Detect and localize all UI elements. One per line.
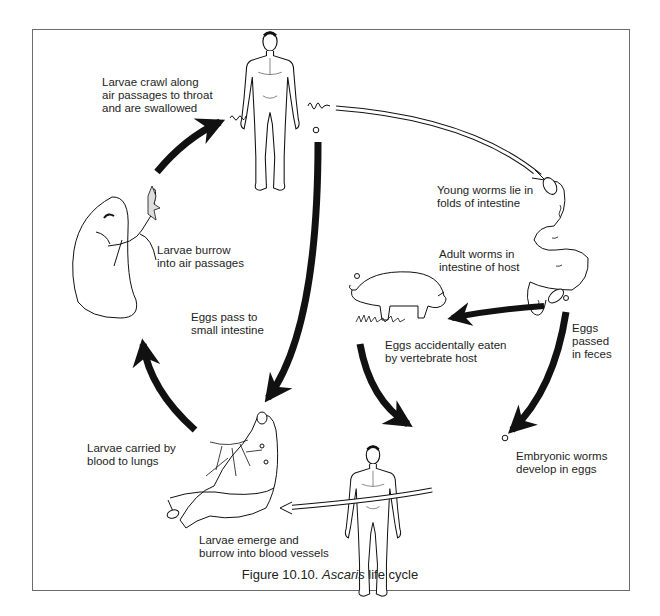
label-eggs-pass: Eggs pass to small intestine: [191, 311, 264, 337]
arrow-lung-to-throat: [157, 122, 220, 172]
human-figure-top-icon: [241, 32, 299, 190]
label-eggs-passed: Eggs passed in feces: [572, 322, 612, 361]
label-young-worms: Young worms lie in folds of intestine: [437, 184, 533, 210]
intestine-blood-vessels-icon: [166, 412, 278, 528]
lung-icon: [73, 186, 160, 318]
label-adult-worms: Adult worms in intestine of host: [439, 248, 520, 274]
label-larvae-burrow: Larvae burrow into air passages: [157, 244, 244, 270]
intestine-right-icon: [527, 175, 588, 315]
caption-suffix: life cycle: [365, 567, 418, 582]
arrow-swallowed-to-intestine: [336, 108, 540, 176]
label-embryonic: Embryonic worms develop in eggs: [516, 450, 607, 476]
arrow-eggs-in-feces: [512, 312, 566, 430]
figure-caption: Figure 10.10. Ascaris life cycle: [0, 567, 660, 582]
label-larvae-carried: Larvae carried by blood to lungs: [87, 442, 176, 468]
egg-icon: [502, 435, 508, 441]
arrow-blood-to-lungs: [143, 344, 195, 430]
caption-prefix: Figure 10.10.: [242, 567, 322, 582]
life-cycle-diagram: [0, 0, 660, 616]
egg-icon: [313, 127, 319, 133]
caption-species: Ascaris: [322, 567, 365, 582]
larva-squiggle-icon: [308, 103, 330, 109]
label-larvae-crawl: Larvae crawl along air passages to throa…: [102, 76, 213, 115]
label-larvae-emerge: Larvae emerge and burrow into blood vess…: [199, 534, 329, 560]
label-eggs-eaten: Eggs accidentally eaten by vertebrate ho…: [385, 339, 506, 365]
pig-icon: [349, 272, 446, 322]
arrow-eggs-to-pig: [452, 306, 544, 318]
